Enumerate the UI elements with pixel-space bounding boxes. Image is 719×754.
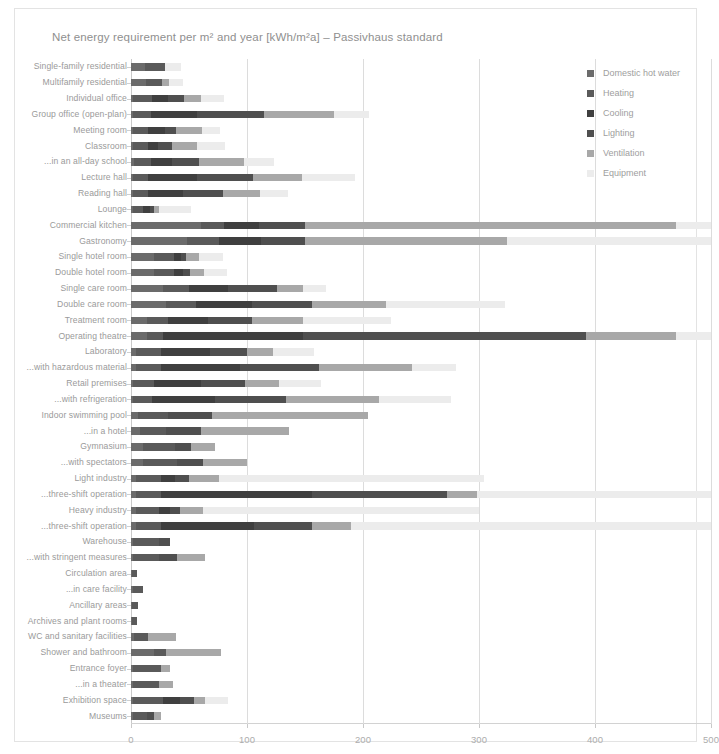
bar-segment (131, 427, 140, 434)
category-label: Warehouse (82, 536, 127, 546)
bar-row (131, 253, 711, 260)
bar-segment (208, 317, 252, 324)
bar-segment (259, 222, 305, 229)
bar-segment (303, 285, 326, 292)
legend-swatch-icon (587, 150, 594, 157)
bar-segment (131, 237, 187, 244)
bar-segment (143, 459, 178, 466)
bar-row (131, 665, 711, 672)
bar-segment (172, 142, 198, 149)
bar-segment (133, 95, 152, 102)
bar-segment (152, 95, 168, 102)
bar-row (131, 396, 711, 403)
legend-item[interactable]: Lighting (587, 125, 707, 145)
bar-row (131, 443, 711, 450)
bar-segment (134, 158, 150, 165)
category-label: Ancillary areas (69, 600, 127, 610)
bar-segment (161, 348, 210, 355)
bar-row (131, 222, 711, 229)
bar-segment (145, 63, 165, 70)
bar-segment (131, 412, 138, 419)
bar-segment (133, 174, 148, 181)
x-tick-100 (247, 724, 248, 728)
legend-label: Heating (603, 85, 634, 102)
bar-segment (252, 301, 312, 308)
category-label: ...in a hotel (84, 426, 127, 436)
legend-item[interactable]: Domestic hot water (587, 65, 707, 85)
bar-segment (252, 317, 303, 324)
bar-segment (196, 301, 252, 308)
bar-segment (161, 522, 254, 529)
legend-item[interactable]: Heating (587, 85, 707, 105)
category-label: Meeting room (73, 125, 127, 135)
bar-segment (412, 364, 456, 371)
category-label: Multifamily residential (43, 77, 127, 87)
bar-segment (136, 507, 159, 514)
bar-segment (180, 507, 203, 514)
bar-segment (177, 554, 205, 561)
bar-segment (133, 538, 159, 545)
category-label: Individual office (66, 93, 127, 103)
bar-row (131, 617, 711, 624)
category-label: Light industry (74, 473, 127, 483)
bar-segment (146, 79, 162, 86)
category-label: ...with stringent measures (26, 552, 127, 562)
legend-label: Ventilation (603, 145, 645, 162)
bar-segment (189, 285, 228, 292)
bar-segment (159, 538, 171, 545)
bar-row (131, 412, 711, 419)
bar-segment (138, 412, 168, 419)
x-tick-300 (479, 724, 480, 728)
legend-item[interactable]: Cooling (587, 105, 707, 125)
bar-segment (148, 127, 164, 134)
bar-segment (148, 633, 176, 640)
bar-segment (131, 222, 201, 229)
bar-segment (186, 253, 200, 260)
bar-segment (131, 317, 147, 324)
bar-segment (201, 380, 245, 387)
bar-segment (224, 222, 259, 229)
legend-swatch-icon (587, 70, 594, 77)
bar-segment (151, 111, 197, 118)
bar-segment (159, 206, 191, 213)
bar-segment (303, 317, 391, 324)
bar-row (131, 538, 711, 545)
bar-row (131, 491, 711, 498)
category-axis-labels: Single-family residentialMultifamily res… (15, 59, 127, 724)
bar-segment (277, 285, 303, 292)
bar-segment (161, 665, 170, 672)
bar-segment (201, 222, 224, 229)
bar-segment (168, 95, 184, 102)
bar-segment (143, 443, 175, 450)
category-label: ...with hazardous material (26, 362, 127, 372)
bar-row (131, 681, 711, 688)
legend-item[interactable]: Equipment (587, 165, 707, 185)
bar-segment (254, 522, 312, 529)
bar-segment (676, 332, 711, 339)
x-tick-0 (131, 724, 132, 728)
bar-segment (133, 681, 159, 688)
bar-segment (312, 491, 447, 498)
category-label: Entrance foyer (70, 663, 127, 673)
category-label: Commercial kitchen (50, 220, 127, 230)
bar-segment (133, 380, 154, 387)
bar-segment (132, 617, 137, 624)
bar-segment (302, 174, 355, 181)
category-label: WC and sanitary facilities (28, 631, 127, 641)
legend-swatch-icon (587, 170, 594, 177)
bar-segment (319, 364, 412, 371)
bar-row (131, 712, 711, 719)
bar-segment (170, 507, 179, 514)
bar-segment (147, 712, 154, 719)
bar-segment (131, 269, 154, 276)
bar-row (131, 649, 711, 656)
bar-segment (159, 507, 171, 514)
bar-segment (477, 491, 711, 498)
bar-segment (447, 491, 477, 498)
bar-segment (151, 158, 172, 165)
bar-row (131, 427, 711, 434)
bar-segment (197, 142, 225, 149)
category-label: Lounge (98, 204, 127, 214)
bar-segment (260, 190, 288, 197)
legend-item[interactable]: Ventilation (587, 145, 707, 165)
